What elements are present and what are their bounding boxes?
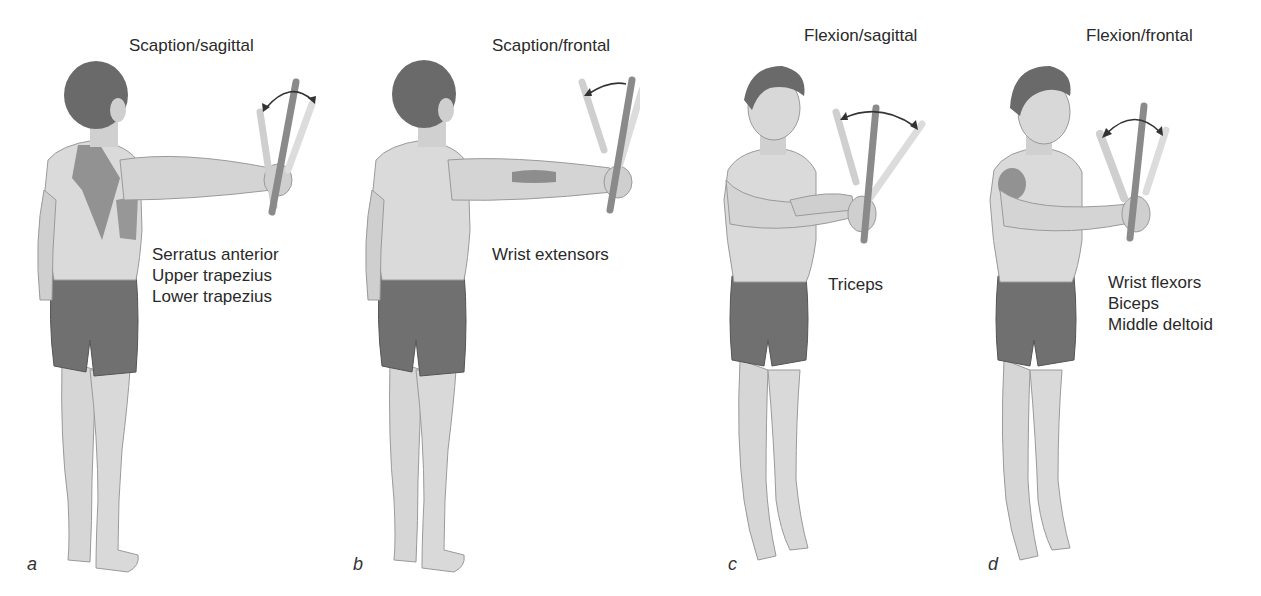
muscle-label: Wrist extensors (492, 244, 609, 265)
muscle-label: Serratus anterior (152, 244, 279, 265)
panel-b: Scaption/frontal Wrist extensors b (320, 0, 640, 596)
panel-letter: b (353, 554, 363, 575)
panel-letter: a (27, 554, 37, 575)
muscle-label: Lower trapezius (152, 286, 279, 307)
muscle-list: Triceps (828, 274, 883, 295)
muscle-label: Upper trapezius (152, 265, 279, 286)
panel-title: Flexion/frontal (1086, 26, 1193, 46)
panel-letter: c (728, 554, 737, 575)
panel-title: Scaption/frontal (492, 36, 610, 56)
highlight-wrist-extensors (512, 170, 556, 183)
panel-title: Flexion/sagittal (804, 26, 917, 46)
muscle-label: Wrist flexors (1108, 272, 1213, 293)
muscle-list: Wrist extensors (492, 244, 609, 265)
muscle-label: Triceps (828, 274, 883, 295)
muscle-list: Serratus anterior Upper trapezius Lower … (152, 244, 279, 307)
panel-d: Flexion/frontal Wrist flexors Biceps Mid… (960, 0, 1261, 596)
muscle-label: Biceps (1108, 293, 1213, 314)
panel-c: Flexion/sagittal Triceps c (640, 0, 960, 596)
panel-title: Scaption/sagittal (129, 36, 254, 56)
muscle-label: Middle deltoid (1108, 314, 1213, 335)
figure-back-view-scaption-frontal (320, 0, 640, 596)
panel-a: Scaption/sagittal Serratus anterior Uppe… (0, 0, 320, 596)
figure-front-view-flexion-sagittal (640, 0, 960, 596)
panel-letter: d (988, 554, 998, 575)
muscle-list: Wrist flexors Biceps Middle deltoid (1108, 272, 1213, 335)
